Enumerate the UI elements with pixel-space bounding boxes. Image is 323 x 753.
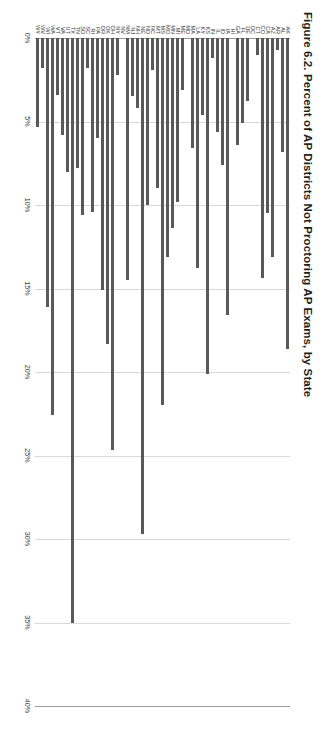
category-label-OK: OK xyxy=(105,8,110,34)
category-label-DE: DE xyxy=(245,8,250,34)
bar-row xyxy=(35,38,40,706)
bar-row xyxy=(175,38,180,706)
category-label-GA: GA xyxy=(235,8,240,34)
bar-row xyxy=(40,38,45,706)
bar-row xyxy=(245,38,250,706)
category-label-MI: MI xyxy=(175,8,180,34)
bar-NE xyxy=(141,38,144,534)
bar-CA xyxy=(266,38,269,213)
bar-row xyxy=(110,38,115,706)
bar-row xyxy=(205,38,210,706)
category-label-WV: WV xyxy=(40,8,45,34)
category-label-MD: MD xyxy=(185,8,190,34)
bar-series xyxy=(35,38,290,706)
bar-row xyxy=(210,38,215,706)
tick-label-25pct: 25% xyxy=(23,448,32,462)
bar-UT xyxy=(66,38,69,172)
tick-label-0pct: 0% xyxy=(23,33,32,43)
bar-IL xyxy=(216,38,219,132)
bar-row xyxy=(105,38,110,706)
category-label-UT: UT xyxy=(65,8,70,34)
category-label-TX: TX xyxy=(70,8,75,34)
bar-row xyxy=(60,38,65,706)
category-label-IL: IL xyxy=(215,8,220,34)
bar-row xyxy=(280,38,285,706)
category-label-OR: OR xyxy=(100,8,105,34)
bar-row xyxy=(220,38,225,706)
tick-label-35pct: 35% xyxy=(23,615,32,629)
value-axis: 0%5%10%15%20%25%30%35%40% xyxy=(16,38,34,706)
bar-row xyxy=(50,38,55,706)
bar-row xyxy=(180,38,185,706)
bar-ND xyxy=(146,38,149,205)
category-label-MA: MA xyxy=(190,8,195,34)
category-label-NM: NM xyxy=(125,8,130,34)
category-label-NH: NH xyxy=(135,8,140,34)
bar-row xyxy=(120,38,125,706)
bar-TX xyxy=(71,38,74,623)
bar-row xyxy=(85,38,90,706)
bar-row xyxy=(255,38,260,706)
bar-row xyxy=(200,38,205,706)
category-label-KS: KS xyxy=(205,8,210,34)
bar-row xyxy=(155,38,160,706)
bar-OK xyxy=(106,38,109,344)
bar-row xyxy=(145,38,150,706)
category-label-IN: IN xyxy=(210,8,215,34)
bar-row xyxy=(265,38,270,706)
figure-rotator: Figure 6.2. Percent of AP Districts Not … xyxy=(0,0,323,753)
bar-WI xyxy=(46,38,49,307)
bar-IA xyxy=(226,38,229,315)
category-label-VA: VA xyxy=(60,8,65,34)
category-label-DC: DC xyxy=(250,8,255,34)
category-label-NE: NE xyxy=(140,8,145,34)
category-label-ND: ND xyxy=(145,8,150,34)
bar-row xyxy=(170,38,175,706)
category-label-LA: LA xyxy=(195,8,200,34)
tick-label-30pct: 30% xyxy=(23,532,32,546)
category-label-TN: TN xyxy=(75,8,80,34)
category-label-HI: HI xyxy=(230,8,235,34)
bar-OH xyxy=(111,38,114,450)
bar-CO xyxy=(261,38,264,278)
tick-label-5pct: 5% xyxy=(23,116,32,126)
bar-row xyxy=(135,38,140,706)
tick-label-40pct: 40% xyxy=(23,699,32,713)
bar-OR xyxy=(101,38,104,290)
bar-WV xyxy=(41,38,44,68)
bar-row xyxy=(115,38,120,706)
gridline-40pct xyxy=(35,706,290,707)
bar-SC xyxy=(86,38,89,68)
bar-VA xyxy=(61,38,64,135)
bar-row xyxy=(160,38,165,706)
bar-NC xyxy=(151,38,154,70)
bar-row xyxy=(270,38,275,706)
category-label-AZ: AZ xyxy=(270,8,275,34)
category-label-FL: FL xyxy=(240,8,245,34)
bar-AR xyxy=(276,38,279,50)
bar-SD xyxy=(81,38,84,215)
bar-row xyxy=(250,38,255,706)
category-label-RI: RI xyxy=(90,8,95,34)
bar-row xyxy=(260,38,265,706)
bar-FL xyxy=(241,38,244,123)
category-label-WI: WI xyxy=(45,8,50,34)
category-label-SC: SC xyxy=(85,8,90,34)
bar-row xyxy=(240,38,245,706)
bar-row xyxy=(80,38,85,706)
category-label-MT: MT xyxy=(155,8,160,34)
bar-CT xyxy=(256,38,259,55)
category-label-AL: AL xyxy=(280,8,285,34)
bar-NY xyxy=(116,38,119,75)
bar-MN xyxy=(171,38,174,228)
bar-row xyxy=(90,38,95,706)
bar-NM xyxy=(126,38,129,280)
category-label-CO: CO xyxy=(260,8,265,34)
bar-row xyxy=(130,38,135,706)
bar-MA xyxy=(191,38,194,148)
plot-area xyxy=(35,38,290,706)
bar-row xyxy=(70,38,75,706)
bar-row xyxy=(55,38,60,706)
category-label-NJ: NJ xyxy=(130,8,135,34)
bar-MS xyxy=(161,38,164,405)
